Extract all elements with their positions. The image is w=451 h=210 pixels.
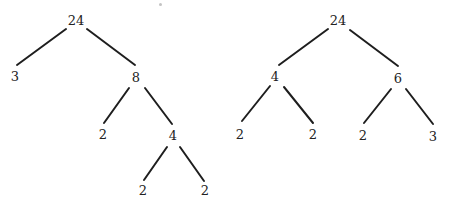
tree-node: 6 <box>394 72 402 85</box>
tree-node-root: 24 <box>330 14 347 27</box>
tree-edges <box>17 29 433 181</box>
tree-node-root: 24 <box>68 14 85 27</box>
tree-node: 2 <box>359 129 367 142</box>
tree-node: 2 <box>99 128 107 141</box>
tree-edge <box>350 30 398 66</box>
tree-edge <box>104 88 129 123</box>
tree-edge <box>242 86 270 121</box>
tree-edge <box>364 89 391 123</box>
tree-edge <box>180 147 204 181</box>
tree-node: 3 <box>11 70 19 83</box>
tree-node: 2 <box>139 184 147 197</box>
tree-edge <box>406 89 433 124</box>
tree-edge <box>145 88 172 124</box>
tree-node: 4 <box>271 70 279 83</box>
tree-edge <box>87 29 135 65</box>
factor-tree-diagram <box>0 0 451 210</box>
tree-node: 2 <box>236 128 244 141</box>
tree-node: 2 <box>201 184 209 197</box>
tree-edge <box>279 29 328 65</box>
tree-edge <box>284 87 313 123</box>
tree-node: 3 <box>429 130 437 143</box>
tree-node: 8 <box>132 71 140 84</box>
tree-edge <box>17 29 66 65</box>
tree-node: 4 <box>169 129 177 142</box>
tree-edge <box>144 147 167 180</box>
tree-node: 2 <box>309 128 317 141</box>
scan-dot <box>159 3 162 6</box>
